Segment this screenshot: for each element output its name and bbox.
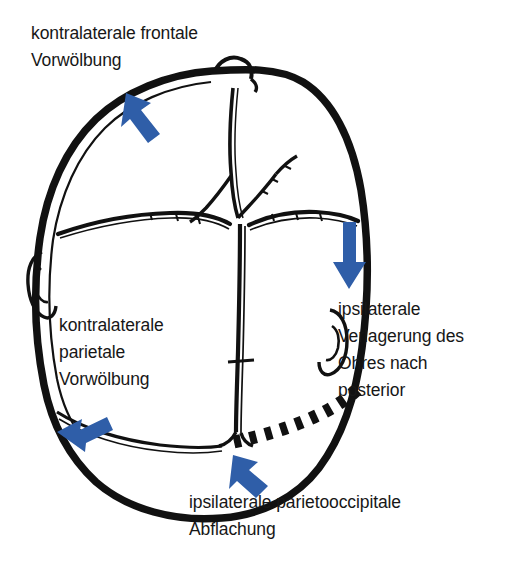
suture-metopica <box>230 88 243 218</box>
suture-coronalis <box>58 212 358 238</box>
fontanelle-anterior <box>190 156 297 222</box>
label-kontralaterale-parietale-vorwoelbung: kontralaterale parietale Vorwölbung <box>59 312 229 393</box>
skull-diagram <box>0 0 510 569</box>
label-ipsilaterale-parietooccipitale-abflachung: ipsilaterale parietooccipitale Abflachun… <box>189 489 489 543</box>
label-ipsilaterale-verlagerung-ohres: ipsilaterale Verlagerung des Ohres nach … <box>338 296 503 404</box>
arrow-ear <box>333 222 366 289</box>
arrow-frontal <box>121 93 160 143</box>
skull-outline <box>36 70 367 519</box>
suture-sagittalis <box>228 224 254 433</box>
label-kontralaterale-frontale-vorwoelbung: kontralaterale frontale Vorwölbung <box>31 20 281 74</box>
